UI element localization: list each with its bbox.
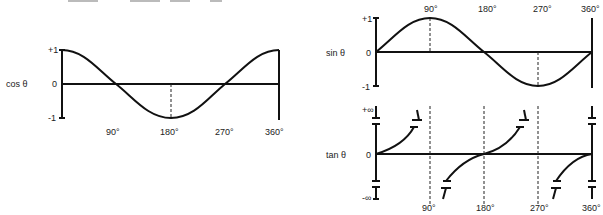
cos-x-tick-90: 90° xyxy=(106,127,120,137)
sin-y-tick-plus1: +1 xyxy=(362,14,372,24)
sin-x-tick-90: 90° xyxy=(424,4,438,14)
sin-y-tick-0: 0 xyxy=(366,48,371,58)
cos-function-label: cos θ xyxy=(6,79,28,89)
cos-x-tick-180: 180° xyxy=(160,127,179,137)
tan-x-tick-270: 270° xyxy=(530,203,549,213)
cos-x-tick-360: 360° xyxy=(265,127,284,137)
tan-break-mark xyxy=(551,181,561,199)
tan-x-tick-90: 90° xyxy=(422,203,436,213)
trig-functions-diagram: cos θ +1 0 -1 90° 180° 270° 360° sin θ +… xyxy=(0,0,603,215)
tan-function-label: tan θ xyxy=(326,150,346,160)
sin-function-label: sin θ xyxy=(326,48,345,58)
sin-chart: sin θ +1 0 -1 90° 180° 270° 360° xyxy=(326,4,600,92)
tan-curve-branch-1 xyxy=(376,127,414,154)
tan-curve-branch-3 xyxy=(556,154,592,181)
cos-y-tick-plus1: +1 xyxy=(48,45,58,55)
tan-y-tick-0: 0 xyxy=(366,150,371,160)
tan-break-mark xyxy=(410,110,422,127)
cropped-caption-fragment xyxy=(68,0,222,2)
sin-x-tick-180: 180° xyxy=(478,4,497,14)
tan-chart: tan θ +∞ 0 -∞ xyxy=(326,105,601,213)
tan-y-tick-plus-infinity: +∞ xyxy=(362,105,374,115)
tan-y-tick-minus-infinity: -∞ xyxy=(362,193,371,203)
sin-x-tick-270: 270° xyxy=(533,4,552,14)
cos-chart: cos θ +1 0 -1 90° 180° 270° 360° xyxy=(6,45,284,137)
tan-right-edge xyxy=(588,106,596,199)
tan-x-tick-360: 360° xyxy=(582,203,601,213)
cos-y-tick-0: 0 xyxy=(52,79,57,89)
tan-x-tick-180: 180° xyxy=(476,203,495,213)
cos-x-tick-270: 270° xyxy=(215,127,234,137)
sin-x-tick-360: 360° xyxy=(581,4,600,14)
sin-y-tick-minus1: -1 xyxy=(362,82,370,92)
cos-y-tick-minus1: -1 xyxy=(48,113,56,123)
